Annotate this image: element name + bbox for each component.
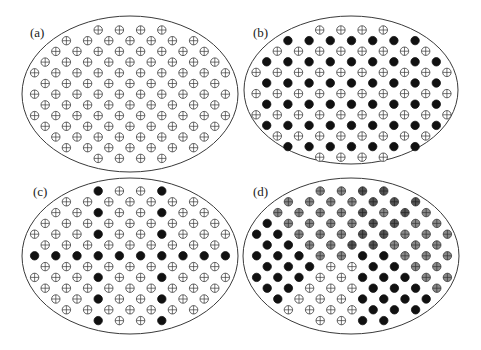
- filled-site-icon: [305, 262, 313, 270]
- gray-site-icon: [305, 219, 313, 227]
- dark-site-icon: [358, 208, 366, 216]
- gray-site-icon: [433, 284, 441, 292]
- open-site-icon: [83, 122, 91, 130]
- filled-site-icon: [380, 295, 388, 303]
- open-site-icon: [358, 47, 366, 55]
- open-site-icon: [30, 69, 38, 77]
- filled-site-icon: [347, 121, 355, 129]
- gray-site-icon: [411, 262, 419, 270]
- gray-site-icon: [422, 208, 430, 216]
- gray-site-icon: [274, 208, 282, 216]
- filled-site-icon: [390, 262, 398, 270]
- open-site-icon: [327, 306, 335, 314]
- filled-site-icon: [158, 295, 166, 303]
- open-site-icon: [189, 101, 197, 109]
- gray-site-icon: [337, 230, 345, 238]
- gray-site-icon: [316, 208, 324, 216]
- filled-site-icon: [284, 142, 292, 150]
- filled-site-icon: [295, 252, 303, 260]
- open-site-icon: [294, 132, 302, 140]
- open-site-icon: [30, 230, 38, 238]
- filled-site-icon: [263, 79, 271, 87]
- dark-site-icon: [348, 241, 356, 249]
- open-site-icon: [83, 144, 91, 152]
- dark-site-icon: [401, 208, 409, 216]
- open-site-icon: [316, 47, 324, 55]
- open-site-icon: [105, 37, 113, 45]
- open-site-icon: [115, 90, 123, 98]
- filled-site-icon: [369, 284, 377, 292]
- open-site-icon: [379, 111, 387, 119]
- filled-site-icon: [390, 284, 398, 292]
- filled-site-icon: [347, 100, 355, 108]
- open-site-icon: [94, 133, 102, 141]
- dark-site-icon: [380, 230, 388, 238]
- filled-site-icon: [274, 252, 282, 260]
- gray-site-icon: [422, 273, 430, 281]
- filled-site-icon: [326, 121, 334, 129]
- gray-site-icon: [327, 241, 335, 249]
- open-site-icon: [200, 69, 208, 77]
- open-site-icon: [294, 111, 302, 119]
- open-site-icon: [168, 144, 176, 152]
- gray-site-icon: [295, 208, 303, 216]
- dark-site-icon: [380, 187, 388, 195]
- filled-site-icon: [369, 58, 377, 66]
- open-site-icon: [52, 69, 60, 77]
- filled-site-icon: [252, 273, 260, 281]
- open-site-icon: [147, 79, 155, 87]
- filled-site-icon: [326, 100, 334, 108]
- open-site-icon: [73, 295, 81, 303]
- open-site-icon: [62, 262, 70, 270]
- filled-site-icon: [380, 273, 388, 281]
- filled-site-icon: [136, 252, 144, 260]
- open-site-icon: [337, 47, 345, 55]
- open-site-icon: [316, 89, 324, 97]
- open-site-icon: [83, 284, 91, 292]
- open-site-icon: [83, 37, 91, 45]
- open-site-icon: [83, 198, 91, 206]
- filled-site-icon: [284, 79, 292, 87]
- open-site-icon: [73, 69, 81, 77]
- gray-site-icon: [305, 241, 313, 249]
- open-site-icon: [211, 101, 219, 109]
- open-site-icon: [200, 230, 208, 238]
- open-site-icon: [83, 241, 91, 249]
- filled-site-icon: [274, 295, 282, 303]
- gray-site-icon: [411, 219, 419, 227]
- open-site-icon: [294, 89, 302, 97]
- open-site-icon: [115, 69, 123, 77]
- open-site-icon: [126, 219, 134, 227]
- filled-site-icon: [295, 273, 303, 281]
- filled-site-icon: [221, 252, 229, 260]
- filled-site-icon: [94, 273, 102, 281]
- open-site-icon: [337, 68, 345, 76]
- open-site-icon: [211, 219, 219, 227]
- open-site-icon: [305, 284, 313, 292]
- filled-site-icon: [401, 273, 409, 281]
- filled-site-icon: [94, 316, 102, 324]
- open-site-icon: [73, 273, 81, 281]
- open-site-icon: [94, 154, 102, 162]
- open-site-icon: [83, 262, 91, 270]
- open-site-icon: [126, 144, 134, 152]
- open-site-icon: [115, 295, 123, 303]
- open-site-icon: [158, 26, 166, 34]
- open-site-icon: [189, 37, 197, 45]
- open-site-icon: [443, 68, 451, 76]
- open-site-icon: [115, 187, 123, 195]
- open-site-icon: [136, 208, 144, 216]
- open-site-icon: [179, 69, 187, 77]
- open-site-icon: [73, 47, 81, 55]
- filled-site-icon: [284, 100, 292, 108]
- open-site-icon: [221, 90, 229, 98]
- open-site-icon: [30, 90, 38, 98]
- filled-site-icon: [432, 79, 440, 87]
- filled-site-icon: [200, 252, 208, 260]
- gray-site-icon: [411, 241, 419, 249]
- filled-site-icon: [432, 100, 440, 108]
- open-site-icon: [147, 306, 155, 314]
- open-site-icon: [422, 68, 430, 76]
- gray-site-icon: [284, 198, 292, 206]
- gray-site-icon: [433, 262, 441, 270]
